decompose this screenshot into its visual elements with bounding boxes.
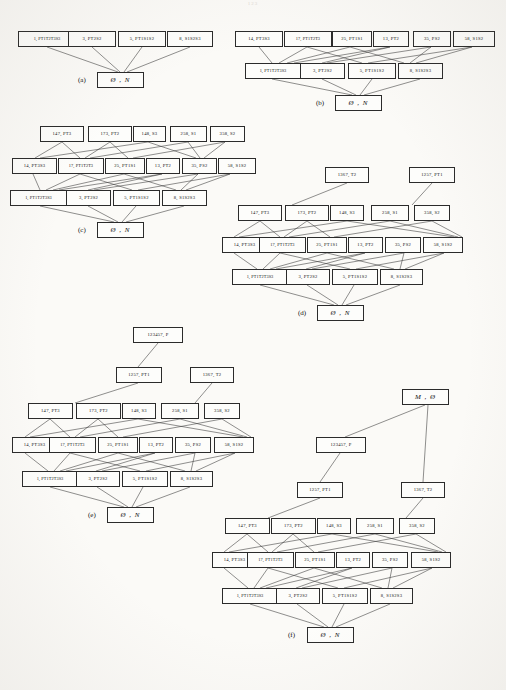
node-3-pt2s2[interactable]: 3, PT2S2 [286,269,330,285]
node-258-s1[interactable]: 258, S1 [161,403,199,419]
panel-label-e: (e) [88,511,96,519]
node-58-s1s2[interactable]: 58, S1S2 [411,552,451,568]
node-bottom-empty-n[interactable]: Ø , N [307,627,354,643]
node-3-pt2s2[interactable]: 3, PT2S2 [66,190,111,206]
node-35-ps2[interactable]: 35, PS2 [175,437,211,453]
node-bottom-empty-n[interactable]: Ø , N [317,305,364,321]
node-258-s1[interactable]: 258, S1 [371,205,409,221]
panel-label-a: (a) [78,76,86,84]
node-17-pt1t2t3[interactable]: 17, PT1T2T3 [58,158,104,174]
panel-f: M , Ø 123457, P 1257, PT1 1367, T2 147, … [210,375,506,690]
node-173-pt2[interactable]: 173, PT2 [88,126,132,142]
node-14-pt3s3[interactable]: 14, PT3S3 [12,158,57,174]
panel-b: 14, PT3S3 17, PT1T2T3 25, PT1S1 13, PT2 … [232,0,506,115]
node-25-pt1s1[interactable]: 25, PT1S1 [332,31,372,47]
node-1367-t2[interactable]: 1367, T2 [325,167,369,183]
node-173-pt2[interactable]: 173, PT2 [271,518,316,534]
node-8-s1s2s3[interactable]: 8, S1S2S3 [398,63,443,79]
panel-label-b: (b) [316,99,324,107]
node-1-pt1t2t3s3[interactable]: 1, PT1T2T3S3 [222,588,278,604]
node-3-pt2s2[interactable]: 3, PT2S2 [300,63,345,79]
node-1257-pt1[interactable]: 1257, PT1 [409,167,455,183]
node-148-s3[interactable]: 148, S3 [317,518,351,534]
panel-label-c: (c) [78,226,86,234]
node-25-pt1s1[interactable]: 25, PT1S1 [98,437,138,453]
node-3-pt2s2[interactable]: 3, PT2S2 [276,588,320,604]
node-148-s3[interactable]: 148, S3 [133,126,166,142]
node-top-m-empty[interactable]: M , Ø [402,389,449,405]
node-35-ps2[interactable]: 35, PS2 [182,158,217,174]
node-17-pt1t2t3[interactable]: 17, PT1T2T3 [247,552,294,568]
node-1-pt1t2t3s3[interactable]: 1, PT1T2T3S3 [245,63,301,79]
node-8-s1s2s3[interactable]: 8, S1S2S3 [370,588,413,604]
node-25-pt1s1[interactable]: 25, PT1S1 [295,552,335,568]
node-1-pt1t2t3s3[interactable]: 1, PT1T2T3S3 [10,190,67,206]
node-5-pt1s1s2[interactable]: 5, PT1S1S2 [122,471,168,487]
panel-a: 1, PT1T2T3S3 3, PT2S2 5, PT1S1S2 8, S1S2… [0,0,250,105]
node-258-s1[interactable]: 258, S1 [170,126,207,142]
node-25-pt1s1[interactable]: 25, PT1S1 [307,237,347,253]
panel-label-f: (f) [288,631,295,639]
panel-d: 1367, T2 1257, PT1 147, PT3 173, PT2 148… [222,155,506,340]
node-14-pt3s3[interactable]: 14, PT3S3 [235,31,283,47]
node-17-pt1t2t3[interactable]: 17, PT1T2T3 [49,437,96,453]
node-1367-t2[interactable]: 1367, T2 [401,482,445,498]
node-13-pt2[interactable]: 13, PT2 [373,31,409,47]
node-35-ps2[interactable]: 35, PS2 [372,552,408,568]
node-13-pt2[interactable]: 13, PT2 [139,437,173,453]
node-35-ps2[interactable]: 35, PS2 [385,237,421,253]
node-147-pt3[interactable]: 147, PT3 [28,403,73,419]
node-3-pt2s2[interactable]: 3, PT2S2 [68,31,116,47]
node-123457-p[interactable]: 123457, P [133,327,183,343]
node-5-pt1s1s2[interactable]: 5, PT1S1S2 [113,190,160,206]
figure-page: 123 1, PT1T2T3S3 3, PT2S2 5, PT1S1S2 8, … [0,0,506,690]
node-148-s3[interactable]: 148, S3 [122,403,156,419]
node-1-pt1t2t3s3[interactable]: 1, PT1T2T3S3 [232,269,288,285]
node-147-pt3[interactable]: 147, PT3 [238,205,282,221]
node-5-pt1s1s2[interactable]: 5, PT1S1S2 [322,588,368,604]
node-25-pt1s1[interactable]: 25, PT1S1 [105,158,145,174]
node-358-s2[interactable]: 358, S2 [210,126,245,142]
node-1257-pt1[interactable]: 1257, PT1 [116,367,162,383]
node-8-s1s2s3[interactable]: 8, S1S2S3 [170,471,213,487]
node-147-pt3[interactable]: 147, PT3 [225,518,270,534]
node-173-pt2[interactable]: 173, PT2 [285,205,329,221]
node-bottom-empty-n[interactable]: Ø , N [97,222,144,238]
node-17-pt1t2t3[interactable]: 17, PT1T2T3 [284,31,332,47]
node-13-pt2[interactable]: 13, PT2 [336,552,370,568]
node-58-s1s2[interactable]: 58, S1S2 [423,237,463,253]
node-17-pt1t2t3[interactable]: 17, PT1T2T3 [259,237,306,253]
node-13-pt2[interactable]: 13, PT2 [146,158,180,174]
node-123457-p[interactable]: 123457, P [316,437,366,453]
panel-a-edges [0,0,250,105]
node-5-pt1s1s2[interactable]: 5, PT1S1S2 [118,31,166,47]
node-5-pt1s1s2[interactable]: 5, PT1S1S2 [332,269,378,285]
node-3-pt2s2[interactable]: 3, PT2S2 [76,471,120,487]
node-147-pt3[interactable]: 147, PT3 [40,126,84,142]
node-5-pt1s1s2[interactable]: 5, PT1S1S2 [348,63,396,79]
node-8-s1s2s3[interactable]: 8, S1S2S3 [380,269,423,285]
node-bottom-empty-n[interactable]: Ø , N [97,72,144,88]
node-35-ps2[interactable]: 35, PS2 [413,31,451,47]
node-13-pt2[interactable]: 13, PT2 [348,237,383,253]
node-358-s2[interactable]: 358, S2 [399,518,435,534]
node-358-s2[interactable]: 358, S2 [414,205,450,221]
node-1-pt1t2t3s3[interactable]: 1, PT1T2T3S3 [22,471,78,487]
node-173-pt2[interactable]: 173, PT2 [76,403,121,419]
node-bottom-empty-n[interactable]: Ø , N [107,507,154,523]
node-1257-pt1[interactable]: 1257, PT1 [297,482,343,498]
node-bottom-empty-n[interactable]: Ø , N [335,95,382,111]
node-148-s3[interactable]: 148, S3 [330,205,364,221]
node-58-s1s2[interactable]: 58, S1S2 [453,31,495,47]
panel-c: 147, PT3 173, PT2 148, S3 258, S1 358, S… [0,110,250,265]
node-258-s1[interactable]: 258, S1 [356,518,394,534]
node-8-s1s2s3[interactable]: 8, S1S2S3 [162,190,207,206]
node-8-s1s2s3[interactable]: 8, S1S2S3 [167,31,213,47]
